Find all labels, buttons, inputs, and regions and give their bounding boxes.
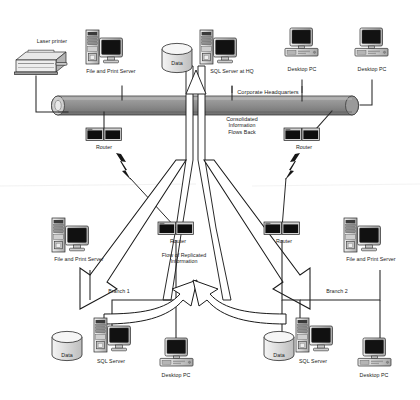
node-router-branch1[interactable]: [158, 222, 194, 235]
label-router-branch2: Router: [268, 238, 300, 244]
label-data-branch1: Data: [55, 352, 79, 358]
label-branch1: Branch 1: [100, 288, 138, 294]
node-laser-printer[interactable]: [15, 50, 68, 74]
node-sql-server-branch2[interactable]: [296, 318, 333, 352]
node-router-branch2[interactable]: [264, 222, 300, 235]
node-file-print-server-branch2[interactable]: [344, 218, 381, 252]
node-desktop-pc-hq-1[interactable]: [285, 28, 318, 56]
label-router-hq-left: Router: [88, 144, 120, 150]
label-router-branch1: Router: [162, 238, 194, 244]
label-desktop-pc-branch2: Desktop PC: [350, 372, 398, 378]
label-sql-server-branch2: SQL Server: [288, 358, 338, 364]
label-data-hq: Data: [165, 60, 189, 66]
label-file-print-server-branch1: File and Print Server: [42, 256, 116, 262]
label-desktop-pc-hq-1: Desktop PC: [278, 66, 326, 72]
label-desktop-pc-hq-2: Desktop PC: [348, 66, 396, 72]
node-router-hq-right[interactable]: [284, 128, 320, 141]
node-desktop-pc-hq-2[interactable]: [355, 28, 388, 56]
label-file-print-server-hq: File and Print Server: [74, 68, 148, 74]
label-sql-server-hq: SQL Server at HQ: [194, 68, 270, 74]
label-consolidated-flow: Consolidated Information Flows Back: [214, 116, 270, 135]
branch-return-arrow-right: [193, 280, 286, 324]
network-diagram: Laser printer File and Print Server Data…: [0, 0, 420, 400]
label-branch2: Branch 2: [318, 288, 356, 294]
node-desktop-pc-branch1[interactable]: [160, 338, 193, 366]
label-corporate-headquarters: Corporate Headquarters: [228, 89, 308, 95]
node-router-hq-left[interactable]: [86, 128, 122, 141]
node-desktop-pc-branch2[interactable]: [358, 338, 391, 366]
node-sql-server-hq[interactable]: [200, 30, 237, 64]
label-desktop-pc-branch1: Desktop PC: [152, 372, 200, 378]
label-laser-printer: Laser printer: [24, 38, 80, 44]
diagram-canvas: [0, 0, 420, 400]
branch-return-arrow-left: [104, 280, 197, 324]
label-router-hq-right: Router: [288, 144, 320, 150]
paper-artifact: [0, 184, 420, 186]
node-file-print-server-hq[interactable]: [86, 30, 123, 64]
label-sql-server-branch1: SQL Server: [86, 358, 136, 364]
node-file-print-server-branch1[interactable]: [52, 218, 89, 252]
label-file-print-server-branch2: File and Print Server: [334, 256, 408, 262]
node-data-hq[interactable]: [162, 43, 192, 72]
label-replicated-flow: Flow of Replicated Information: [148, 252, 220, 265]
